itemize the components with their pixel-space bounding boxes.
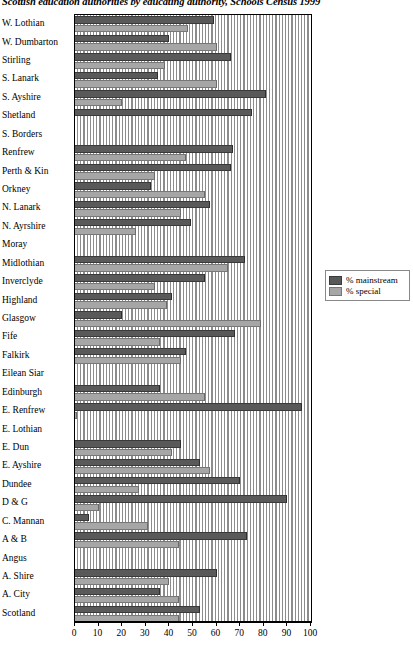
y-axis-label: A. Shire [2,571,68,581]
legend-label-mainstream: % mainstream [346,275,398,285]
bar-mainstream [75,293,172,300]
y-axis-label: E. Lothian [2,424,68,434]
bar-group-e-lothian [75,420,311,438]
bar-special [75,522,148,529]
bar-group-w-dumbarton [75,33,311,51]
bar-mainstream [75,459,200,466]
bar-mainstream [75,403,302,410]
bar-mainstream [75,495,287,502]
x-axis-tick [168,622,169,626]
bar-special [75,357,181,364]
bar-group-n-ayrshire [75,218,311,236]
bar-group-edinburgh [75,383,311,401]
bar-mainstream [75,256,245,263]
bar-mainstream [75,330,235,337]
bar-special [75,191,205,198]
x-axis-tick-label: 90 [282,628,292,638]
bar-group-glasgow [75,310,311,328]
bar-mainstream [75,53,231,60]
x-axis-tick-label: 10 [93,628,103,638]
bar-special [75,62,165,69]
bar-mainstream [75,440,181,447]
bar-group-e-renfrew [75,402,311,420]
x-axis-tick [121,622,122,626]
bar-group-a-shire [75,568,311,586]
bar-group-a-b [75,531,311,549]
bar-special [75,301,167,308]
bar-mainstream [75,274,205,281]
bar-group-angus [75,549,311,567]
x-axis-tick [145,622,146,626]
bar-special [75,172,155,179]
x-axis-tick-label: 60 [211,628,221,638]
x-axis-tick [286,622,287,626]
bar-mainstream [75,109,252,116]
x-axis-tick-label: 50 [187,628,197,638]
bar-group-falkirk [75,347,311,365]
y-axis-label: Stirling [2,55,68,65]
bar-group-s-lanark [75,70,311,88]
bar-group-s-ayshire [75,89,311,107]
legend-item-special: % special [329,286,405,296]
x-axis-tick [263,622,264,626]
y-axis-label: C. Mannan [2,516,68,526]
x-axis-tick-label: 0 [72,628,77,638]
y-axis-label: E. Renfrew [2,405,68,415]
bar-mainstream [75,201,210,208]
y-axis-label: Glasgow [2,313,68,323]
legend-swatch-mainstream-icon [329,276,342,285]
bar-group-e-ayshire [75,457,311,475]
y-axis-label: Perth & Kin [2,166,68,176]
bar-group-stirling [75,52,311,70]
bar-mainstream [75,348,186,355]
bar-group-a-city [75,586,311,604]
bar-group-d-g [75,494,311,512]
y-axis-label: Renfrew [2,147,68,157]
bar-mainstream [75,385,160,392]
x-axis-tick [310,622,311,626]
legend-swatch-special-icon [329,287,342,296]
y-axis-label: N. Lanark [2,202,68,212]
y-axis-label: Falkirk [2,350,68,360]
bar-mainstream [75,164,231,171]
y-axis-label: A & B [2,534,68,544]
y-axis-label: Edinburgh [2,387,68,397]
x-axis-tick-label: 20 [116,628,126,638]
bar-mainstream [75,532,247,539]
y-axis-label: Shetland [2,110,68,120]
bar-special [75,596,179,603]
y-axis-label: W. Dumbarton [2,37,68,47]
bar-group-s-borders [75,126,311,144]
bar-special [75,504,99,511]
x-axis-tick [98,622,99,626]
bar-special [75,412,77,419]
x-axis-tick-label: 80 [258,628,268,638]
bar-special [75,154,186,161]
bar-mainstream [75,145,233,152]
bar-special [75,467,210,474]
bar-mainstream [75,311,122,318]
y-axis-label: A. City [2,589,68,599]
bar-mainstream [75,182,151,189]
x-axis-tick-label: 40 [164,628,174,638]
x-axis-tick-label: 70 [234,628,244,638]
y-axis-label: Fife [2,331,68,341]
bar-mainstream [75,606,200,613]
bar-group-fife [75,328,311,346]
bar-special [75,486,139,493]
legend-item-mainstream: % mainstream [329,275,405,285]
bar-special [75,264,228,271]
chart-title: Scottish education authorities by educat… [2,0,411,7]
y-axis-label: E. Ayshire [2,460,68,470]
y-axis-label: Moray [2,239,68,249]
bar-group-e-dun [75,439,311,457]
y-axis-label: Inverclyde [2,276,68,286]
y-axis-label: Eilean Siar [2,368,68,378]
bar-group-renfrew [75,144,311,162]
bar-group-inverclyde [75,273,311,291]
bar-mainstream [75,35,169,42]
bar-special [75,320,261,327]
bar-mainstream [75,514,89,521]
y-axis-label: Midlothian [2,258,68,268]
bar-special [75,283,155,290]
